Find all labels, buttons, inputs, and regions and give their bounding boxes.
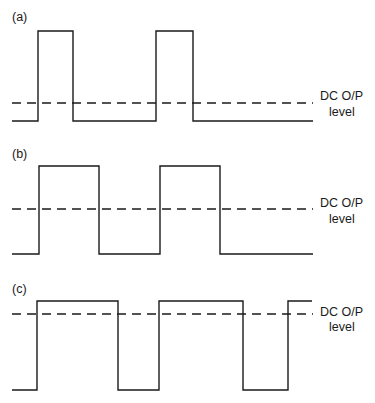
panel-label: (a) — [12, 10, 27, 24]
panel-label: (b) — [12, 147, 27, 161]
waveform-panel-a: (a)DC O/Plevel — [12, 10, 363, 121]
dc-label-line2: level — [329, 212, 355, 226]
dc-label-line1: DC O/P — [320, 305, 363, 319]
dc-label-line1: DC O/P — [320, 196, 363, 210]
pulse-waveform — [12, 166, 313, 254]
panel-label: (c) — [12, 282, 27, 296]
dc-label-line2: level — [329, 320, 355, 334]
waveform-panel-b: (b)DC O/Plevel — [12, 147, 363, 254]
dc-label-line1: DC O/P — [320, 89, 363, 103]
dc-label-line2: level — [329, 105, 355, 119]
pulse-waveform — [12, 31, 313, 121]
waveform-panel-c: (c)DC O/Plevel — [12, 282, 363, 390]
pwm-waveform-diagram: (a)DC O/Plevel(b)DC O/Plevel(c)DC O/Plev… — [0, 0, 375, 403]
